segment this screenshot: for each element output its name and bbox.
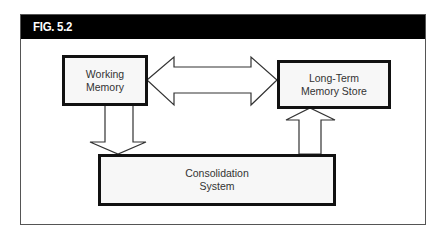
bidirectional-arrow <box>147 57 277 105</box>
node-consolidation-system: Consolidation System <box>98 154 336 206</box>
node-working-memory: Working Memory <box>62 55 148 106</box>
node-long-term-memory-store-label: Long-Term Memory Store <box>301 72 367 98</box>
node-working-memory-label: Working Memory <box>86 68 124 94</box>
node-consolidation-system-label: Consolidation System <box>185 167 249 193</box>
node-long-term-memory-store: Long-Term Memory Store <box>277 60 391 109</box>
down-arrow <box>90 105 146 154</box>
up-arrow <box>286 108 335 154</box>
